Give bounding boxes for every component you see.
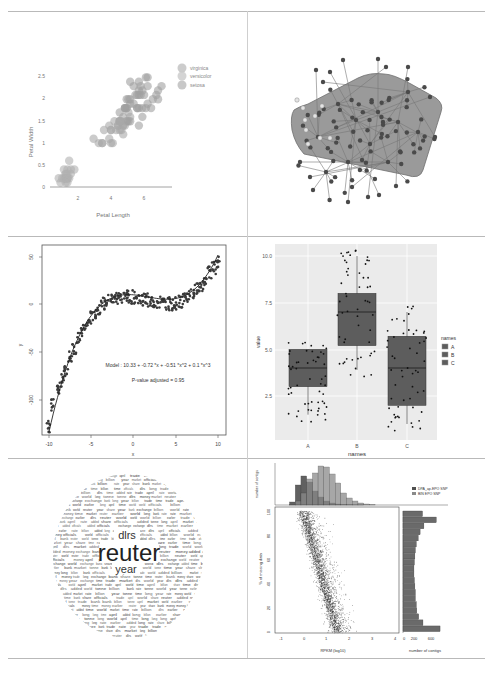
svg-text:world: world [50, 617, 58, 621]
svg-text:april: april [164, 634, 170, 638]
svg-text:officials: officials [198, 608, 209, 612]
svg-text:dlrs: dlrs [194, 592, 200, 596]
svg-text:reuter: reuter [205, 634, 215, 638]
svg-text:long: long [145, 634, 152, 638]
fit-curve [49, 255, 218, 432]
svg-text:exchange: exchange [206, 638, 221, 642]
svg-text:dlrs: dlrs [204, 557, 210, 562]
right-histogram [403, 511, 440, 632]
svg-text:money: money [173, 638, 184, 642]
svg-text:april: april [99, 638, 105, 642]
svg-text:reuter: reuter [190, 473, 201, 478]
svg-text:added: added [210, 554, 220, 558]
y-tick: 2 [42, 95, 45, 101]
svg-text:market: market [50, 633, 63, 638]
x-tick: 0 [403, 636, 406, 641]
svg-text:share: share [85, 637, 96, 642]
right-x-label: number of contigs [409, 648, 441, 653]
svg-text:share: share [198, 566, 206, 570]
svg-text:time: time [172, 487, 178, 491]
x-axis-label: Petal Length [96, 212, 130, 218]
svg-text:year: year [63, 482, 68, 486]
svg-text:long: long [77, 625, 83, 629]
svg-text:april: april [202, 550, 209, 554]
svg-text:time: time [203, 617, 210, 621]
svg-text:dlrs: dlrs [175, 578, 182, 583]
svg-text:world: world [79, 634, 86, 638]
svg-text:earlier: earlier [50, 604, 58, 608]
top-histogram [290, 466, 376, 505]
svg-text:year: year [193, 508, 198, 512]
y-tick: 0.5 [38, 162, 45, 168]
svg-text:market: market [50, 503, 59, 507]
svg-text:tonne: tonne [70, 495, 79, 499]
x-tick: 3 [371, 636, 374, 641]
x-tick: 4 [110, 195, 113, 201]
svg-text:trade: trade [50, 508, 58, 512]
svg-text:year: year [192, 616, 201, 621]
top-y-label: number of contigs [255, 470, 259, 498]
svg-text:bank: bank [195, 511, 205, 516]
svg-text:world: world [189, 600, 197, 604]
svg-text:reuter: reuter [50, 478, 58, 482]
model-annotation: Model : 10.33 + -0.72 *x + -0.51 *x^2 + … [106, 362, 211, 368]
svg-text:share: share [198, 503, 205, 507]
svg-text:added: added [160, 533, 168, 537]
svg-text:billion: billion [203, 491, 211, 495]
svg-text:tonne: tonne [137, 638, 146, 642]
plot-frame [42, 245, 226, 435]
x-tick: B [355, 443, 359, 449]
svg-text:reuter: reuter [203, 478, 210, 482]
iris-legend: virginica versicolor setosa [178, 64, 212, 90]
x-tick: C [405, 443, 409, 449]
svg-text:rate: rate [196, 520, 202, 524]
svg-text:tonne: tonne [50, 499, 58, 503]
svg-text:long: long [164, 629, 171, 633]
svg-text:world: world [50, 511, 59, 516]
svg-text:reuter: reuter [62, 478, 72, 482]
svg-text:dlrs: dlrs [156, 634, 161, 638]
svg-text:billion: billion [50, 490, 62, 495]
svg-text:dlrs: dlrs [194, 583, 199, 587]
svg-text:market: market [61, 607, 74, 612]
svg-text:time: time [201, 625, 207, 629]
svg-text:time: time [209, 482, 215, 486]
svg-text:long: long [68, 625, 74, 629]
svg-text:april: april [68, 519, 76, 524]
svg-text:rate: rate [50, 607, 58, 612]
pvalue-annotation: P-value adjusted = 0.95 [132, 377, 185, 383]
x-tick: -5 [89, 441, 94, 447]
svg-text:world: world [206, 512, 214, 516]
x-axis-label: names [348, 451, 366, 457]
svg-text:billion: billion [203, 487, 212, 491]
data-points [46, 256, 221, 434]
svg-text:world: world [50, 481, 61, 486]
legend-versicolor: versicolor [190, 73, 212, 79]
svg-text:bank: bank [59, 520, 66, 524]
svg-text:world: world [97, 607, 107, 612]
legend-dpa: DPA_ap-EPO SNP [418, 487, 448, 491]
svg-text:added: added [180, 617, 190, 621]
svg-text:april: april [200, 554, 206, 558]
svg-text:market: market [183, 607, 196, 612]
y-tick: 40 [266, 581, 271, 586]
polynomial-fit-panel: -10 -5 0 5 10 x 50 0 -50 -100 y Model : … [0, 237, 247, 458]
legend-virginica: virginica [190, 65, 209, 71]
svg-text:billion: billion [71, 481, 83, 486]
svg-text:world: world [71, 621, 79, 625]
svg-text:time: time [179, 478, 186, 482]
y-tick: 20 [266, 605, 271, 610]
svg-text:billion: billion [69, 638, 78, 642]
svg-text:share: share [50, 579, 57, 583]
svg-text:money: money [200, 528, 213, 533]
y-axis-label: y [17, 343, 23, 346]
svg-text:bank: bank [210, 579, 218, 583]
svg-text:officials: officials [201, 508, 210, 512]
iris-points [55, 73, 166, 187]
x-axis [49, 435, 218, 438]
svg-text:share: share [50, 474, 59, 478]
svg-text:share: share [164, 638, 171, 642]
boxplot-chart: 10.0 7.5 5.0 2.5 value A B C names names… [248, 237, 497, 458]
svg-text:april: april [158, 529, 164, 533]
svg-text:added: added [76, 478, 85, 482]
